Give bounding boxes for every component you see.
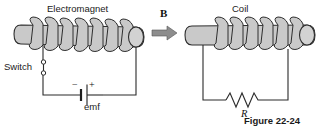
figure-22-24: Electromagnet <box>0 0 328 127</box>
coil-circuit-wires <box>203 45 288 100</box>
coil-end-cap <box>300 25 315 45</box>
electromagnet-title: Electromagnet <box>47 3 109 14</box>
electromagnet-group: Electromagnet <box>4 3 144 112</box>
arrow-right-icon <box>152 26 177 40</box>
coil-group: Coil R <box>185 3 315 119</box>
magnetic-field-indicator: B <box>152 7 177 40</box>
electromagnet-end-cap <box>129 27 144 47</box>
battery-minus-label: − <box>72 79 78 90</box>
figure-caption: Figure 22-24 <box>244 115 301 126</box>
switch-terminal-icon[interactable] <box>41 71 45 75</box>
switch-terminal-icon[interactable] <box>41 60 45 64</box>
switch-label: Switch <box>4 61 32 72</box>
battery-plus-label: + <box>89 79 95 90</box>
emf-label: emf <box>84 101 100 112</box>
coil-title: Coil <box>232 3 248 14</box>
field-label-b: B <box>160 7 168 19</box>
switch[interactable]: Switch <box>4 60 46 75</box>
